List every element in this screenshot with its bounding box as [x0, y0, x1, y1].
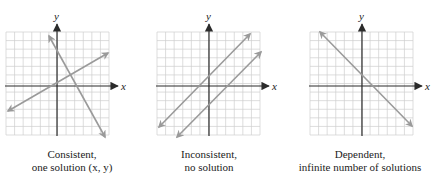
dependent-caption: Dependent, infinite number of solutions: [288, 148, 432, 174]
inconsistent-panel: xy: [156, 10, 277, 137]
y-axis-label: y: [358, 10, 364, 22]
caption-line: no solution: [137, 161, 281, 174]
caption-line: one solution (x, y): [0, 161, 144, 174]
equation-line: [159, 34, 250, 127]
caption-line: Dependent,: [288, 148, 432, 161]
dependent-panel: xy: [309, 10, 430, 136]
x-axis-label: x: [271, 80, 277, 92]
x-axis-label: x: [424, 80, 430, 92]
y-axis-label: y: [205, 10, 211, 22]
caption-line: Inconsistent,: [137, 148, 281, 161]
consistent-caption: Consistent, one solution (x, y): [0, 148, 144, 174]
caption-line: infinite number of solutions: [288, 161, 432, 174]
caption-line: Consistent,: [0, 148, 144, 161]
x-axis-label: x: [120, 80, 126, 92]
y-axis-label: y: [53, 10, 59, 22]
equation-line: [320, 32, 412, 126]
consistent-panel: xy: [5, 10, 126, 137]
inconsistent-caption: Inconsistent, no solution: [137, 148, 281, 174]
